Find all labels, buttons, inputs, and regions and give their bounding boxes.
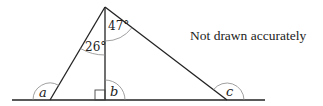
right-angle-marker [95, 90, 105, 100]
angle-label-c: c [226, 84, 234, 99]
angle-label-a: a [39, 85, 47, 100]
angle-label-b: b [110, 84, 118, 99]
angle-label-47: 47° [108, 19, 129, 33]
angle-label-26: 26° [85, 40, 106, 54]
triangle-angle-diagram: 26° 47° a b c Not drawn accurately [0, 0, 323, 106]
not-drawn-accurately-note: Not drawn accurately [190, 28, 306, 43]
